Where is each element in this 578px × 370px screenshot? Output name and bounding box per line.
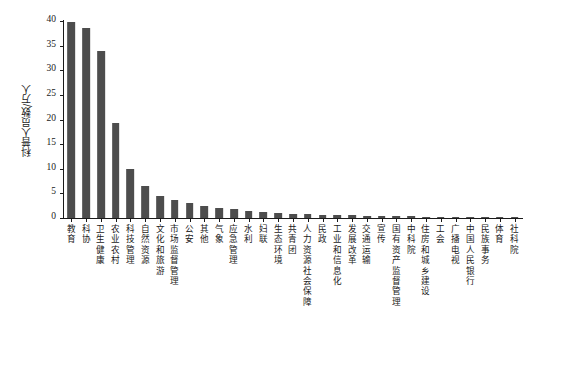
y-tick-label: 40 [16,14,56,24]
x-tick-label: 生态环境 [271,224,286,266]
x-tick-label: 工业和信息化 [330,224,345,286]
bar[interactable] [215,208,223,218]
x-tick-label: 社科院 [507,224,522,255]
y-tick-label: 25 [16,88,56,98]
x-tick-mark [500,218,501,222]
bar-slot [138,21,153,218]
y-tick-label: 5 [16,186,56,196]
x-tick-mark [160,218,161,222]
x-axis-labels: 教育科协卫生健康农业农村科技管理自然资源文化和旅游市场监督管理公安其他气象应急管… [64,224,522,364]
bar-slot [212,21,227,218]
x-tick-mark [145,218,146,222]
y-tick-label: 30 [16,63,56,73]
x-tick-label: 工会 [433,224,448,245]
x-tick-mark [86,218,87,222]
x-tick-mark [470,218,471,222]
x-tick-label: 体育 [492,224,507,245]
bar-slot [182,21,197,218]
bar-slot [345,21,360,218]
bar-slot [404,21,419,218]
bar[interactable] [171,200,179,218]
x-tick-mark [441,218,442,222]
bar-slot [123,21,138,218]
x-tick-label: 公安 [182,224,197,245]
bar-slot [492,21,507,218]
x-tick-label: 广播电视 [448,224,463,266]
bar-slot [94,21,109,218]
bar-slot [256,21,271,218]
bar[interactable] [186,203,194,218]
x-tick-mark [190,218,191,222]
x-tick-mark [456,218,457,222]
x-tick-label: 科技管理 [123,224,138,266]
x-tick-label: 宣传 [374,224,389,245]
bar[interactable] [112,123,120,218]
bar[interactable] [230,209,238,218]
x-tick-mark [71,218,72,222]
x-tick-mark [130,218,131,222]
bar[interactable] [97,51,105,218]
x-tick-mark [515,218,516,222]
bar-slot [463,21,478,218]
x-tick-mark [426,218,427,222]
x-tick-mark [204,218,205,222]
bar[interactable] [156,196,164,218]
x-tick-label: 中国人民银行 [463,224,478,286]
bar-slot [167,21,182,218]
bar-slot [315,21,330,218]
x-tick-mark [249,218,250,222]
x-tick-mark [382,218,383,222]
x-tick-label: 农业农村 [108,224,123,266]
x-tick-mark [175,218,176,222]
x-tick-label: 国有资产监督管理 [389,224,404,307]
x-tick-mark [263,218,264,222]
x-tick-mark [337,218,338,222]
bar-slot [478,21,493,218]
x-tick-mark [101,218,102,222]
bar[interactable] [127,169,135,218]
y-tick-label: 10 [16,162,56,172]
x-tick-mark [485,218,486,222]
x-tick-mark [323,218,324,222]
bar-slot [300,21,315,218]
y-tick-mark [60,218,64,219]
bar-slot [359,21,374,218]
x-tick-label: 文化和旅游 [153,224,168,276]
bar-slot [286,21,301,218]
x-tick-label: 气象 [212,224,227,245]
bar-slot [389,21,404,218]
bar-slot [241,21,256,218]
bar-slot [227,21,242,218]
bar-slot [153,21,168,218]
x-tick-label: 交通运输 [359,224,374,266]
x-tick-label: 发展改革 [345,224,360,266]
x-tick-label: 卫生健康 [94,224,109,266]
bar-slot [419,21,434,218]
bar[interactable] [245,211,253,218]
bar-slot [197,21,212,218]
x-tick-label: 自然资源 [138,224,153,266]
x-tick-mark [308,218,309,222]
x-tick-label: 其他 [197,224,212,245]
x-tick-label: 妇联 [256,224,271,245]
x-tick-mark [278,218,279,222]
bar[interactable] [82,28,90,218]
bar[interactable] [200,206,208,218]
y-tick-label: 0 [16,211,56,221]
x-tick-label: 人力资源社会保障 [300,224,315,307]
y-tick-label: 20 [16,113,56,123]
bar-slot [433,21,448,218]
x-tick-label: 民政 [315,224,330,245]
x-tick-mark [367,218,368,222]
y-tick-label: 35 [16,39,56,49]
x-tick-label: 科协 [79,224,94,245]
bar[interactable] [141,186,149,219]
bar-slot [108,21,123,218]
bar-slot [507,21,522,218]
x-tick-label: 市场监督管理 [167,224,182,286]
x-tick-label: 住房和城乡建设 [419,224,434,297]
bar[interactable] [68,22,76,218]
y-tick-label: 15 [16,137,56,147]
x-tick-mark [116,218,117,222]
bar-slot [79,21,94,218]
